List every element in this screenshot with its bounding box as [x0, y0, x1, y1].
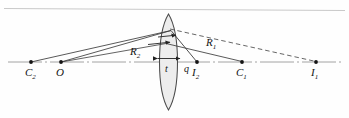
- point-i1: [314, 60, 318, 64]
- label-i2: I2: [191, 66, 200, 81]
- label-c2: C2: [25, 66, 36, 81]
- point-c1: [240, 60, 244, 64]
- label-t: t: [165, 63, 168, 74]
- optics-ray-diagram-figure: C2 O R2 t q I2 C1 R1 I1: [0, 0, 349, 118]
- label-c1: C1: [236, 66, 247, 81]
- ray-from-o-lower: [61, 44, 166, 63]
- diagram-canvas: C2 O R2 t q I2 C1 R1 I1: [0, 0, 349, 118]
- dashed-construction-ray-to-i1: [170, 29, 316, 62]
- top-divider-rule: [4, 9, 345, 11]
- point-c2: [29, 60, 33, 64]
- point-o: [59, 60, 63, 64]
- point-i2: [195, 60, 199, 64]
- label-r2: R2: [129, 45, 141, 60]
- label-o: O: [56, 66, 64, 78]
- label-i1: I1: [310, 66, 318, 81]
- label-r1: R1: [205, 36, 216, 51]
- label-q: q: [184, 63, 189, 74]
- biconvex-lens: [160, 14, 178, 110]
- ray-from-o-upper: [61, 31, 171, 63]
